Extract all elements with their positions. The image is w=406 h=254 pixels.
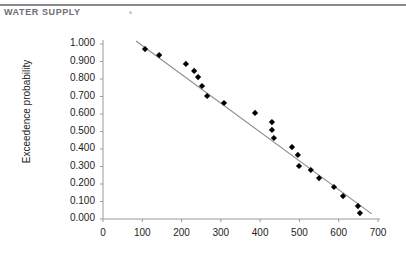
data-point-marker <box>191 68 197 74</box>
exceedence-probability-chart: Exceedence probability 0.0000.1000.2000.… <box>0 22 406 254</box>
y-axis-tick-label: 0.300 <box>51 160 95 171</box>
page-title: Water Supply <box>4 7 81 17</box>
axes <box>100 40 380 222</box>
data-point-marker <box>252 110 258 116</box>
dust-speck-icon <box>129 11 132 14</box>
data-point-marker <box>195 74 201 80</box>
header-divider <box>0 4 406 6</box>
x-axis-tick-label: 600 <box>319 227 359 238</box>
x-axis-tick-label: 300 <box>201 227 241 238</box>
data-point-marker <box>156 52 162 58</box>
data-point-marker <box>355 203 361 209</box>
y-axis-tick-label: 1.000 <box>51 37 95 48</box>
data-point-marker <box>296 163 302 169</box>
y-axis-tick-label: 0.000 <box>51 212 95 223</box>
x-axis-tick-label: 0 <box>83 227 123 238</box>
data-point-marker <box>221 100 227 106</box>
y-axis-tick-label: 0.200 <box>51 177 95 188</box>
data-point-marker <box>183 61 189 67</box>
y-axis-tick-label: 0.800 <box>51 72 95 83</box>
data-point-marker <box>269 127 275 133</box>
y-axis-tick-label: 0.700 <box>51 90 95 101</box>
data-points <box>142 46 363 216</box>
data-point-marker <box>269 119 275 125</box>
data-point-marker <box>357 210 363 216</box>
data-point-marker <box>295 152 301 158</box>
x-axis-tick-label: 400 <box>240 227 280 238</box>
y-axis-tick-label: 0.900 <box>51 55 95 66</box>
x-axis-tick-label: 500 <box>279 227 319 238</box>
x-axis-tick-label: 200 <box>162 227 202 238</box>
y-axis-tick-label: 0.400 <box>51 142 95 153</box>
data-point-marker <box>204 93 210 99</box>
y-axis-tick-label: 0.100 <box>51 195 95 206</box>
y-axis-tick-label: 0.600 <box>51 107 95 118</box>
data-point-marker <box>316 175 322 181</box>
trend-line <box>136 41 372 214</box>
x-axis-tick-label: 100 <box>122 227 162 238</box>
data-point-marker <box>142 46 148 52</box>
data-point-marker <box>289 144 295 150</box>
x-axis-tick-label: 700 <box>358 227 398 238</box>
y-axis-tick-label: 0.500 <box>51 125 95 136</box>
